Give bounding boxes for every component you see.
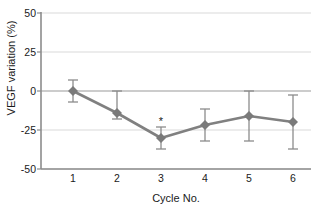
x-tick-label: 1 bbox=[70, 172, 76, 184]
error-bars bbox=[68, 80, 298, 149]
significance-asterisk: * bbox=[159, 115, 164, 127]
chart-plot-area: * bbox=[0, 0, 317, 217]
x-tick-label: 2 bbox=[114, 172, 120, 184]
data-line-series bbox=[73, 91, 293, 138]
x-tick-label: 4 bbox=[202, 172, 208, 184]
data-point-marker bbox=[112, 108, 122, 118]
data-point-marker bbox=[288, 117, 298, 127]
x-tick-label: 3 bbox=[158, 172, 164, 184]
data-point-marker bbox=[156, 133, 166, 143]
data-markers bbox=[68, 86, 298, 143]
x-axis-title: Cycle No. bbox=[41, 192, 311, 204]
x-tick-label: 6 bbox=[290, 172, 296, 184]
x-tick-label: 5 bbox=[246, 172, 252, 184]
data-point-marker bbox=[200, 120, 210, 130]
data-point-marker bbox=[68, 86, 78, 96]
vegf-variation-chart: VEGF variation (%) 50 25 0 -25 -50 bbox=[0, 0, 317, 217]
data-point-marker bbox=[244, 111, 254, 121]
